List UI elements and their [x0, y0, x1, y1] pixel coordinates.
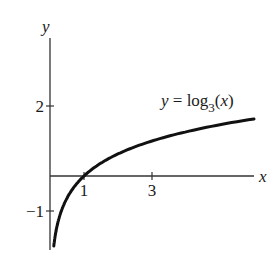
ticks: 132−1: [26, 97, 156, 221]
x-tick-label: 1: [80, 181, 89, 200]
y-axis-label: y: [40, 17, 50, 36]
y-tick-label: −1: [26, 202, 44, 221]
function-label: y = log3(x): [159, 91, 234, 115]
x-axis-label: x: [258, 167, 267, 186]
y-tick-label: 2: [36, 97, 45, 116]
x-tick-label: 3: [148, 181, 157, 200]
log-function-chart: x y 132−1 y = log3(x): [0, 0, 280, 260]
